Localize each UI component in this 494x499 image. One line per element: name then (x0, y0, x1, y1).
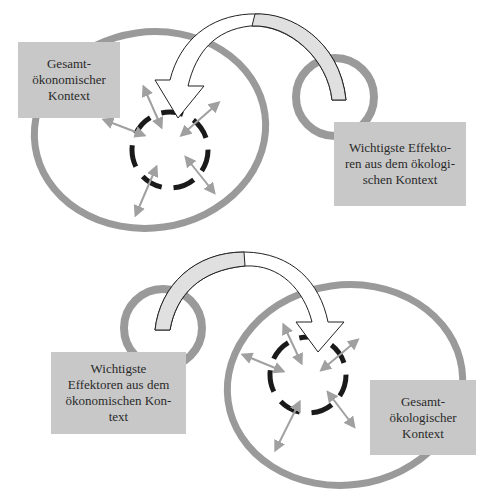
inner-dashed-circle (132, 112, 208, 188)
economic-effectors-box: Wichtigste Effektoren aus dem ökonomisch… (51, 352, 186, 434)
ecological-effectors-box: Wichtigste Effekto- ren aus dem ökologi-… (334, 122, 466, 206)
bidirectional-arrows (246, 328, 355, 447)
curved-arrow-icon (155, 252, 344, 352)
economic-context-box: Gesamt- ökonomischer Kontext (18, 42, 120, 118)
bidirectional-arrows (107, 90, 216, 212)
ecological-context-box: Gesamt- ökologischer Kontext (370, 380, 476, 455)
